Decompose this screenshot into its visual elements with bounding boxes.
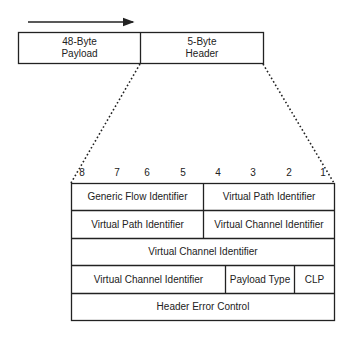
bit-label-5: 5 bbox=[176, 167, 190, 178]
bit-label-1: 1 bbox=[316, 167, 330, 178]
field-payload-type: Payload Type bbox=[226, 266, 294, 293]
bit-label-3: 3 bbox=[246, 167, 260, 178]
field-virtual-path-identifier: Virtual Path Identifier bbox=[72, 211, 203, 238]
bit-label-2: 2 bbox=[282, 167, 296, 178]
header-label-line2: Header bbox=[186, 48, 219, 60]
header-segment: 5-Byte Header bbox=[141, 33, 263, 63]
field-header-error-control: Header Error Control bbox=[72, 294, 334, 320]
payload-segment: 48-Byte Payload bbox=[19, 33, 140, 63]
field-generic-flow-identifier: Generic Flow Identifier bbox=[72, 184, 203, 210]
field-clp: CLP bbox=[295, 266, 334, 293]
field-virtual-channel-identifier: Virtual Channel Identifier bbox=[204, 211, 334, 238]
field-virtual-path-identifier: Virtual Path Identifier bbox=[204, 184, 334, 210]
field-virtual-channel-identifier: Virtual Channel Identifier bbox=[72, 239, 334, 265]
bit-label-4: 4 bbox=[211, 167, 225, 178]
bit-label-8: 8 bbox=[75, 167, 89, 178]
bit-label-7: 7 bbox=[110, 167, 124, 178]
expand-line-right bbox=[263, 64, 334, 183]
payload-label-line1: 48-Byte bbox=[62, 36, 96, 48]
field-virtual-channel-identifier: Virtual Channel Identifier bbox=[72, 266, 225, 293]
expand-line-left bbox=[71, 64, 140, 183]
payload-label-line2: Payload bbox=[61, 48, 97, 60]
header-label-line1: 5-Byte bbox=[188, 36, 217, 48]
bit-label-6: 6 bbox=[140, 167, 154, 178]
